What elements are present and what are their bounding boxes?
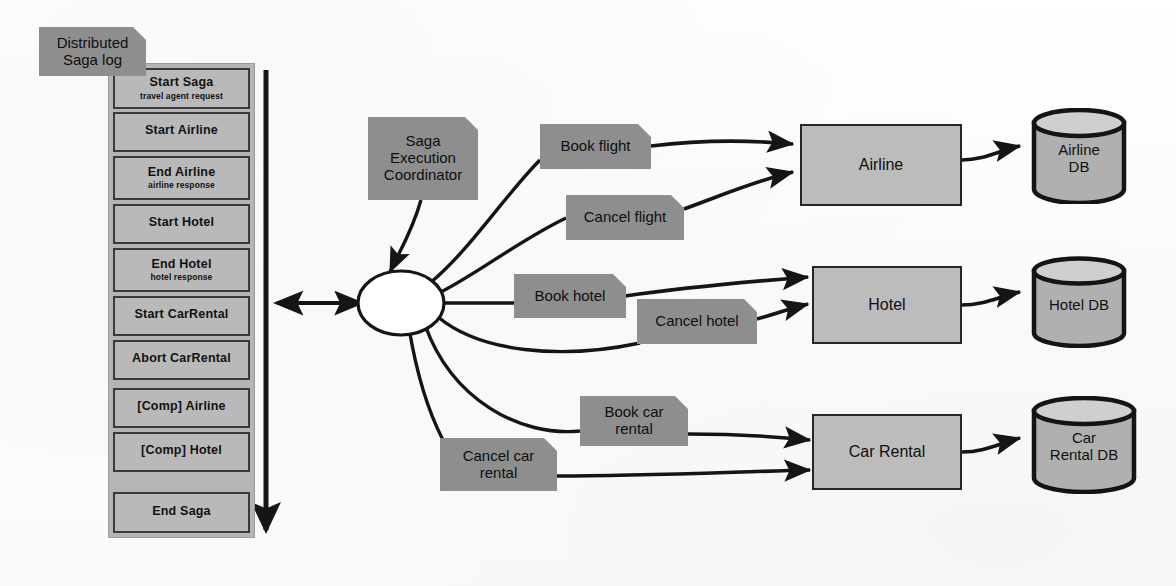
message-note-label: Cancel hotel: [655, 313, 738, 330]
cylinder-icon: [1029, 108, 1129, 204]
log-entry-title: Start Airline: [145, 124, 218, 137]
edge-airline-to-airline-db: [962, 146, 1020, 160]
edge-cancel-car-to-car-rental: [557, 470, 810, 476]
log-entry[interactable]: [Comp] Hotel: [113, 432, 250, 472]
service-label: Car Rental: [849, 443, 925, 461]
cylinder-icon: [1029, 256, 1129, 348]
log-entry[interactable]: Start Hotel: [113, 204, 250, 244]
log-entry[interactable]: End Airline airline response: [113, 156, 250, 200]
log-entry-subtitle: hotel response: [151, 273, 213, 282]
service-box-car-rental[interactable]: Car Rental: [812, 414, 962, 490]
log-entry-title: Start Hotel: [149, 216, 214, 229]
database-car-rental-db[interactable]: Car Rental DB: [1029, 396, 1139, 494]
log-entry-subtitle: airline response: [148, 181, 215, 190]
edge-cancel-hotel-to-hotel: [757, 304, 808, 319]
edge-cancel-flight-to-airline: [684, 172, 793, 209]
message-note-cancel-hotel: Cancel hotel: [637, 299, 757, 344]
edge-node-to-cancel-hotel: [438, 317, 640, 352]
coordinator-line2: Execution: [390, 150, 456, 167]
message-note-line2: rental: [615, 421, 653, 438]
edge-node-to-book-car-rental: [425, 325, 580, 432]
log-entry-title: [Comp] Airline: [137, 400, 225, 413]
edge-node-to-cancel-car-rental: [409, 328, 443, 440]
distributed-saga-log-note: Distributed Saga log: [39, 27, 146, 76]
message-note-label: Book flight: [560, 138, 630, 155]
message-note-cancel-car-rental: Cancel car rental: [440, 438, 557, 491]
distributed-saga-log-note-line2: Saga log: [63, 52, 122, 69]
distributed-saga-log-note-line1: Distributed: [57, 35, 129, 52]
coordinator-line1: Saga: [405, 133, 440, 150]
log-entry[interactable]: Start Airline: [113, 112, 250, 152]
edge-book-car-to-car-rental: [688, 434, 810, 440]
coordinator-line3: Coordinator: [384, 167, 462, 184]
message-note-line1: Book car: [604, 404, 663, 421]
service-box-hotel[interactable]: Hotel: [812, 266, 962, 344]
edge-book-flight-to-airline: [651, 141, 793, 146]
database-airline-db[interactable]: Airline DB: [1029, 108, 1129, 204]
service-label: Airline: [859, 156, 903, 174]
message-note-book-car-rental: Book car rental: [580, 396, 688, 446]
log-entry-title: [Comp] Hotel: [141, 444, 222, 457]
log-entry-title: Start CarRental: [135, 308, 229, 321]
log-entry[interactable]: End Hotel hotel response: [113, 248, 250, 292]
log-entry-subtitle: travel agent request: [140, 92, 223, 101]
log-entry-title: End Saga: [152, 505, 211, 518]
database-hotel-db[interactable]: Hotel DB: [1029, 256, 1129, 348]
log-entry[interactable]: [Comp] Airline: [113, 388, 250, 428]
log-entry-title: End Hotel: [151, 258, 211, 271]
log-entry[interactable]: End Saga: [113, 492, 250, 533]
log-entry-title: End Airline: [148, 166, 216, 179]
message-note-label: Cancel flight: [584, 209, 667, 226]
saga-execution-coordinator-note: Saga Execution Coordinator: [368, 117, 478, 200]
edge-car-rental-to-car-rental-db: [962, 438, 1020, 452]
edge-coordinator-to-node: [390, 200, 421, 272]
saga-coordinator-node[interactable]: [355, 268, 447, 338]
log-entry-title: Start Saga: [150, 76, 214, 89]
cylinder-icon: [1029, 396, 1139, 494]
message-note-book-flight: Book flight: [540, 124, 651, 169]
service-box-airline[interactable]: Airline: [800, 124, 962, 206]
log-entry[interactable]: Start CarRental: [113, 296, 250, 336]
message-note-cancel-flight: Cancel flight: [566, 195, 684, 240]
message-note-line2: rental: [480, 465, 518, 482]
log-entry-title: Abort CarRental: [132, 352, 231, 365]
service-label: Hotel: [868, 296, 905, 314]
edge-hotel-to-hotel-db: [962, 292, 1020, 305]
message-note-label: Book hotel: [535, 288, 606, 305]
diagram-canvas: coordinator node -->: [0, 0, 1176, 586]
message-note-line1: Cancel car: [463, 448, 535, 465]
edge-book-hotel-to-hotel: [625, 277, 808, 296]
log-entry[interactable]: Abort CarRental: [113, 340, 250, 380]
message-note-book-hotel: Book hotel: [514, 274, 626, 318]
